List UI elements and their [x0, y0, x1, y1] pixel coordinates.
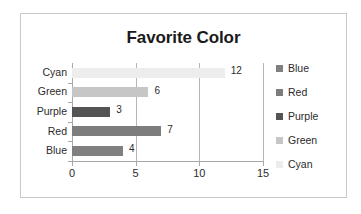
legend-item-green[interactable]: Green [276, 133, 317, 147]
bar-cyan[interactable] [72, 68, 225, 78]
y-axis-label-green: Green [38, 85, 67, 97]
y-axis-labels: CyanGreenPurpleRedBlue [21, 63, 67, 161]
x-axis-line [72, 161, 264, 162]
y-axis-label-red: Red [48, 125, 67, 137]
bar-blue[interactable] [72, 146, 123, 156]
bar-value-label: 3 [116, 104, 122, 115]
x-tick-5 [136, 162, 137, 166]
bar-green[interactable] [72, 87, 148, 97]
bar-value-label: 12 [231, 65, 242, 76]
x-tick-0 [72, 162, 73, 166]
legend-item-cyan[interactable]: Cyan [276, 157, 313, 171]
legend-item-purple[interactable]: Purple [276, 109, 318, 123]
chart-title: Favorite Color [21, 28, 346, 48]
bar-purple[interactable] [72, 107, 110, 117]
y-axis-label-cyan: Cyan [42, 66, 67, 78]
x-axis-label-0: 0 [69, 167, 75, 179]
plot-area: 126374 [72, 63, 263, 161]
bar-red[interactable] [72, 126, 161, 136]
x-tick-15 [263, 162, 264, 166]
legend-label: Red [288, 86, 307, 98]
x-axis-label-10: 10 [193, 167, 205, 179]
x-tick-10 [199, 162, 200, 166]
legend-swatch-icon [276, 137, 283, 144]
legend-swatch-icon [276, 89, 283, 96]
bar-value-label: 7 [167, 124, 173, 135]
legend-swatch-icon [276, 161, 283, 168]
y-tick [68, 161, 72, 162]
bar-row: 6 [72, 83, 263, 103]
legend-label: Blue [288, 62, 309, 74]
chart-legend: BlueRedPurpleGreenCyan [276, 61, 346, 181]
y-axis-label-purple: Purple [37, 105, 67, 117]
legend-item-red[interactable]: Red [276, 85, 307, 99]
legend-label: Cyan [288, 158, 313, 170]
legend-swatch-icon [276, 113, 283, 120]
x-axis-labels: 051015 [72, 167, 263, 183]
bar-value-label: 4 [129, 143, 135, 154]
bar-row: 12 [72, 63, 263, 83]
legend-item-blue[interactable]: Blue [276, 61, 309, 75]
y-axis-label-blue: Blue [46, 144, 67, 156]
bar-row: 4 [72, 141, 263, 161]
chart-container: Favorite Color CyanGreenPurpleRedBlue 12… [20, 13, 347, 198]
x-axis-label-15: 15 [257, 167, 269, 179]
bar-row: 3 [72, 102, 263, 122]
bar-value-label: 6 [154, 85, 160, 96]
legend-label: Purple [288, 110, 318, 122]
legend-swatch-icon [276, 65, 283, 72]
gridline-x-15 [263, 63, 264, 161]
legend-label: Green [288, 134, 317, 146]
bar-row: 7 [72, 122, 263, 142]
x-axis-label-5: 5 [133, 167, 139, 179]
